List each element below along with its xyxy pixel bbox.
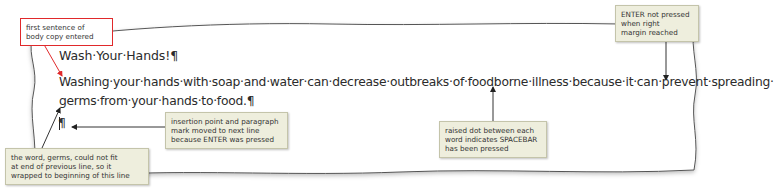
callout-line: has been pressed [445, 144, 541, 153]
callout-line: wrapped to beginning of this line [11, 171, 143, 180]
document-heading: Wash·Your·Hands!¶ [59, 48, 178, 63]
callout-line: because ENTER was pressed [171, 135, 282, 144]
callout-line: mark moved to next line [171, 126, 282, 135]
callout-line: margin reached [621, 28, 693, 37]
callout-line: when right [621, 19, 693, 28]
callout-insertion-point: insertion point and paragraph mark moved… [165, 112, 288, 149]
callout-line: insertion point and paragraph [171, 117, 282, 126]
callout-enter-not-pressed: ENTER not pressed when right margin reac… [615, 5, 699, 42]
insertion-point-cursor [59, 117, 60, 130]
body-line-2: germs·from·your·hands·to·food.¶ [59, 94, 254, 108]
callout-line: at end of previous line, so it [11, 162, 143, 171]
callout-word-wrap: the word, germs, could not fit at end of… [5, 148, 149, 185]
callout-line: word indicates SPACEBAR [445, 135, 541, 144]
callout-line: the word, germs, could not fit [11, 153, 143, 162]
body-line-1: Washing·your·hands·with·soap·and·water·c… [59, 75, 774, 89]
callout-raised-dot: raised dot between each word indicates S… [439, 121, 547, 158]
callout-line: first sentence of [26, 23, 107, 32]
callout-first-sentence: first sentence of body copy entered [20, 18, 113, 46]
callout-line: raised dot between each [445, 126, 541, 135]
callout-line: body copy entered [26, 32, 107, 41]
callout-line: ENTER not pressed [621, 10, 693, 19]
